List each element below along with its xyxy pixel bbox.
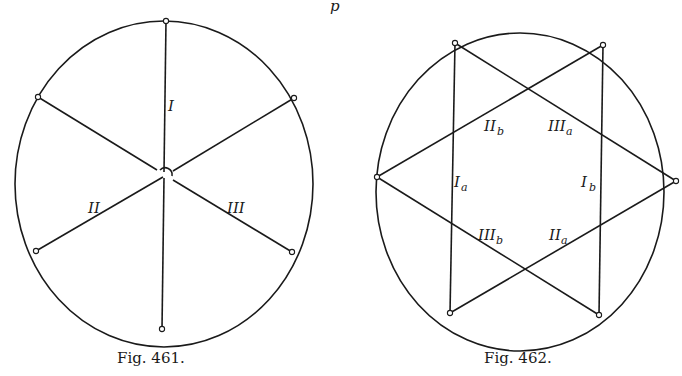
svg-text:I: I: [580, 173, 588, 191]
svg-text:b: b: [497, 125, 504, 138]
node: [291, 95, 296, 100]
figure-461: I II III Fig. 461.: [15, 18, 313, 367]
node: [452, 40, 457, 45]
node: [289, 249, 294, 254]
svg-text:b: b: [496, 234, 503, 247]
label-II: II: [87, 199, 101, 217]
label-IIIb: III b: [477, 226, 503, 247]
node: [374, 174, 379, 179]
node: [33, 248, 38, 253]
svg-text:a: a: [461, 181, 468, 194]
edge-Ib: [599, 45, 603, 315]
node: [159, 326, 164, 331]
svg-text:a: a: [561, 234, 568, 247]
spoke-I-bottom: [162, 178, 164, 329]
header-fragment: p: [330, 0, 340, 15]
svg-text:II: II: [548, 226, 562, 244]
node: [447, 310, 452, 315]
caption-fig-462: Fig. 462.: [484, 349, 552, 367]
figure-462: II b III a I a I b III b II a Fig. 462.: [374, 33, 678, 367]
circle-outline: [376, 33, 664, 351]
svg-text:III: III: [477, 226, 497, 244]
svg-text:II: II: [483, 117, 497, 135]
label-III: III: [226, 199, 246, 217]
node: [673, 178, 678, 183]
node: [600, 42, 605, 47]
svg-text:I: I: [453, 173, 461, 191]
spoke-upper-left: [38, 97, 157, 170]
figure-canvas: p I II III Fig. 461.: [0, 0, 682, 376]
label-I: I: [167, 97, 175, 115]
caption-fig-461: Fig. 461.: [117, 349, 185, 367]
spoke-I-top: [164, 21, 166, 172]
svg-text:III: III: [547, 117, 567, 135]
center-hub: [160, 168, 172, 176]
label-IIb: II b: [483, 117, 504, 138]
label-IIa: II a: [548, 226, 568, 247]
node: [35, 94, 40, 99]
svg-text:a: a: [566, 125, 573, 138]
label-Ia: I a: [453, 173, 468, 194]
label-IIIa: III a: [547, 117, 573, 138]
svg-text:b: b: [589, 181, 596, 194]
spoke-upper-right: [173, 98, 294, 171]
node: [163, 18, 168, 23]
node: [596, 312, 601, 317]
label-Ib: I b: [580, 173, 596, 194]
